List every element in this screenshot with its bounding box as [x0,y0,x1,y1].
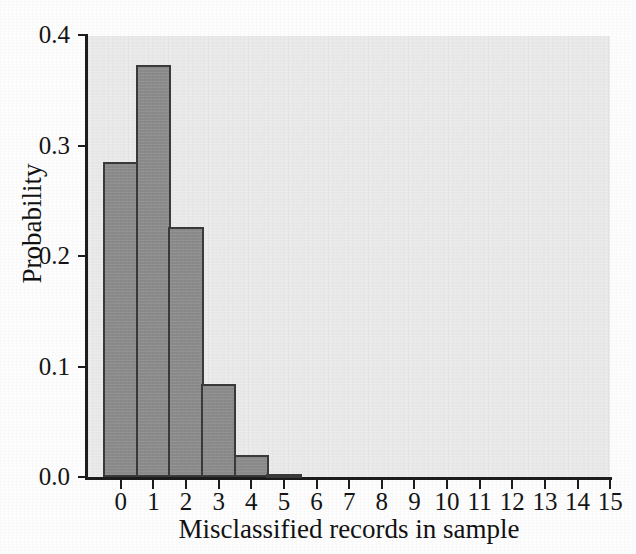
probability-histogram-figure: 0.00.10.20.30.4 0123456789101112131415 P… [0,0,636,554]
y-axis-title: Probability [19,104,46,344]
x-axis-tick-label: 15 [587,489,633,514]
x-axis-title: Misclassified records in sample [88,516,610,543]
x-axis-ticks: 0123456789101112131415 [0,0,636,554]
